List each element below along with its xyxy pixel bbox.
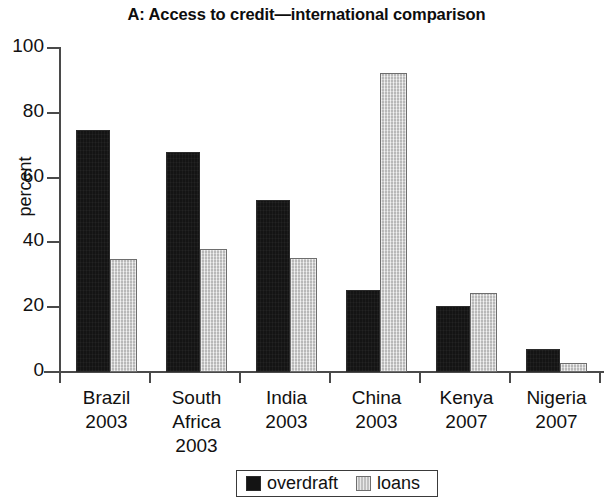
y-tick-40 [47,241,60,243]
x-tick-4 [419,372,421,383]
bar-overdraft-5 [526,349,560,372]
x-tick-1 [149,372,151,383]
bar-loans-4 [470,293,497,372]
bar-loans-3 [380,73,407,372]
plot-area [60,48,600,372]
y-tick-20 [47,306,60,308]
y-tick-100 [47,47,60,49]
bar-loans-2 [290,258,317,372]
chart-legend: overdraft loans [236,470,438,497]
bar-overdraft-0 [76,130,110,372]
bar-loans-0 [110,259,137,372]
legend-label-overdraft: overdraft [267,473,338,494]
bar-overdraft-4 [436,306,470,372]
x-category-label-5: Nigeria2007 [502,386,612,434]
bar-overdraft-3 [346,290,380,372]
y-tick-label-80: 80 [0,100,44,122]
x-tick-3 [329,372,331,383]
legend-item-loans[interactable]: loans [356,473,420,494]
legend-swatch-overdraft [246,476,261,491]
legend-swatch-loans [356,476,371,491]
bar-loans-5 [560,363,587,372]
bar-overdraft-1 [166,152,200,372]
category-year-1: 2003 [142,434,252,458]
category-name-5: Nigeria [502,386,612,410]
y-tick-label-60: 60 [0,165,44,187]
y-tick-label-100: 100 [0,35,44,57]
legend-item-overdraft[interactable]: overdraft [246,473,338,494]
x-tick-6 [599,372,601,383]
chart-title: A: Access to credit—international compar… [0,5,613,24]
legend-label-loans: loans [377,473,420,494]
y-tick-80 [47,112,60,114]
bar-loans-1 [200,249,227,372]
y-tick-label-20: 20 [0,294,44,316]
x-tick-5 [509,372,511,383]
bar-chart-figure: A: Access to credit—international compar… [0,0,613,500]
y-tick-60 [47,177,60,179]
x-tick-0 [59,372,61,383]
x-tick-2 [239,372,241,383]
category-year-5: 2007 [502,410,612,434]
bar-overdraft-2 [256,200,290,372]
y-tick-label-40: 40 [0,229,44,251]
y-tick-label-0: 0 [0,359,44,381]
